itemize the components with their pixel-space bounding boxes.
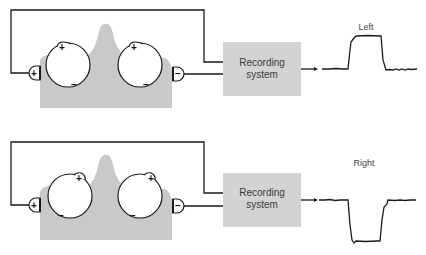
svg-text:−: − [175,68,181,79]
svg-text:+: + [31,200,37,211]
electrode-left-positive: + [29,66,40,80]
output-arrow [301,198,318,202]
svg-text:+: + [31,68,37,79]
svg-text:+: + [76,173,82,184]
svg-text:+: + [148,173,154,184]
electrode-right-negative: − [173,67,184,81]
svg-text:+: + [59,42,65,53]
electrode-right-negative: − [173,199,184,213]
svg-text:−: − [130,210,136,221]
svg-text:−: − [71,79,77,90]
svg-text:−: − [58,210,64,221]
recording-box-line1: Recording [239,187,285,198]
electrode-left-positive: + [29,198,40,212]
recording-box-line1: Recording [239,57,285,68]
recording-system-box: Recording system [223,173,301,227]
svg-text:−: − [175,200,181,211]
eog-trace-left [322,36,417,71]
output-arrow [301,67,318,71]
eog-trace-right [319,200,416,244]
panel-bottom-gaze-right: + − + − + − Recording system [11,142,416,243]
recording-box-line2: system [246,69,278,80]
recording-box-line2: system [246,199,278,210]
trace-label-left: Left [358,22,374,32]
panel-top-gaze-left: + − + − + − Recording system [11,10,417,108]
svg-text:−: − [143,79,149,90]
trace-label-right: Right [353,158,375,168]
recording-system-box: Recording system [223,42,301,96]
svg-text:+: + [131,42,137,53]
